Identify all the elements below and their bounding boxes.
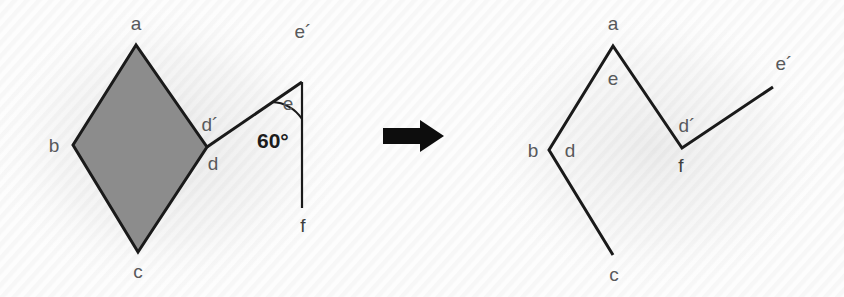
label-e-right: e	[608, 68, 619, 89]
label-c-right: c	[609, 264, 619, 285]
label-dprime-left: d´	[202, 114, 219, 135]
label-f-left: f	[300, 215, 306, 236]
label-eprime-left: e´	[295, 21, 312, 42]
label-a-right: a	[608, 13, 619, 34]
label-eprime-right: e´	[776, 53, 793, 74]
label-d-right: d	[565, 140, 576, 161]
label-b-left: b	[49, 135, 60, 156]
label-e-left: e	[283, 93, 294, 114]
label-b-right: b	[528, 140, 539, 161]
label-c-left: c	[133, 261, 143, 282]
geometry-diagram: a b c d d´ e e´ f 60° a e b d c d´ f e´	[0, 0, 844, 297]
label-f-right: f	[678, 155, 684, 176]
figure-container: a b c d d´ e e´ f 60° a e b d c d´ f e´	[0, 0, 844, 297]
angle-label-60: 60°	[257, 129, 289, 152]
label-d-left: d	[208, 153, 219, 174]
label-a-left: a	[131, 13, 142, 34]
label-dprime-right: d´	[679, 115, 696, 136]
